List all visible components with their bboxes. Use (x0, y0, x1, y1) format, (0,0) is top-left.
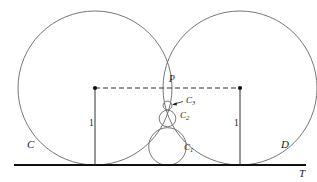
label-circle-c1: C1 (184, 143, 193, 153)
circle-c3 (163, 101, 172, 110)
center-dot-left (93, 86, 97, 90)
label-circle-c1-subscript: 1 (190, 146, 193, 153)
label-circle-c2: C2 (180, 111, 189, 121)
label-radius-left: 1 (89, 119, 94, 129)
label-circle-c2-subscript: 2 (186, 114, 189, 121)
circle-c1 (149, 128, 187, 166)
arrow-to-c3-head (172, 102, 177, 105)
geometry-figure: C D T P C1 C2 C3 1 1 (0, 0, 317, 182)
label-circle-c3: C3 (186, 96, 195, 106)
center-dot-right (238, 86, 242, 90)
label-point-p: P (169, 75, 175, 85)
label-circle-d: D (281, 139, 289, 150)
figure-canvas (0, 0, 317, 182)
label-circle-c3-subscript: 3 (192, 99, 195, 106)
label-tangent-line-t: T (299, 168, 305, 179)
label-radius-right: 1 (234, 119, 239, 129)
label-circle-c: C (27, 139, 34, 150)
